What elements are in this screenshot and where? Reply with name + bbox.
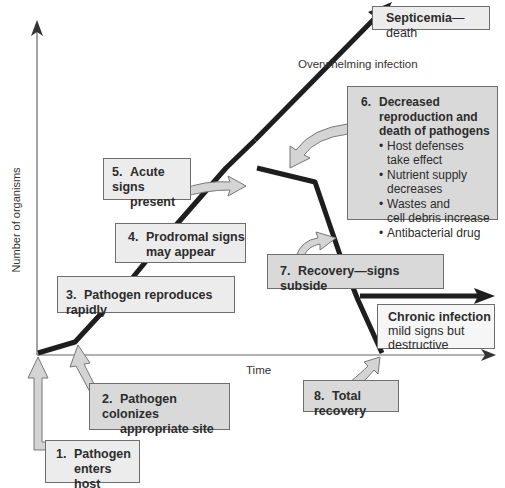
stage-1-line-1: Pathogen xyxy=(74,447,131,461)
chronic-line-2: destructive xyxy=(388,338,448,352)
bullet-wastes: Wastes andcell debris increase xyxy=(379,197,497,226)
x-axis-label: Time xyxy=(246,364,271,376)
stage-6-bullets: Host defensestake effect Nutrient supply… xyxy=(361,139,497,241)
stage-3-box: 3.Pathogen reproduces rapidly xyxy=(57,276,235,313)
callout-arrow-1 xyxy=(28,357,60,450)
bullet-host-defenses: Host defensestake effect xyxy=(379,139,497,168)
stage-3-line-1: Pathogen reproduces rapidly xyxy=(66,288,213,317)
bullet-nutrient-supply: Nutrient supplydecreases xyxy=(379,168,497,197)
stage-6-line-3: death of pathogens xyxy=(361,124,497,139)
stage-4-line-1: Prodromal signs xyxy=(146,230,245,244)
stage-7-line-1: Recovery—signs subside xyxy=(280,264,399,293)
stage-7-number: 7. xyxy=(280,264,298,279)
y-axis-label: Number of organisms xyxy=(10,160,22,280)
bullet-antibacterial: Antibacterial drug xyxy=(379,226,497,241)
chronic-infection-box: Chronic infection mild signs but destruc… xyxy=(377,304,495,349)
stage-8-number: 8. xyxy=(314,389,332,404)
callout-arrow-7 xyxy=(296,232,336,256)
stage-1-number: 1. xyxy=(56,447,74,462)
overwhelming-infection-label: Overwhelming infection xyxy=(298,58,418,70)
stage-3-number: 3. xyxy=(66,288,84,303)
stage-6-line-2: reproduction and xyxy=(361,110,497,125)
stage-7-box: 7.Recovery—signs subside xyxy=(267,254,444,289)
stage-5-number: 5. xyxy=(112,165,130,180)
stage-6-line-1: Decreased xyxy=(379,95,440,109)
stage-6-number: 6. xyxy=(361,95,379,110)
stage-5-line-2: present xyxy=(112,195,190,210)
chronic-line-1: mild signs but xyxy=(388,324,464,338)
septicemia-bold: Septicemia xyxy=(386,11,452,25)
stage-2-number: 2. xyxy=(102,392,120,407)
stage-8-box: 8.Total recovery xyxy=(303,380,399,412)
diagram-canvas xyxy=(0,0,505,488)
stage-2-line-2: appropriate site xyxy=(102,422,229,437)
callout-arrow-6 xyxy=(290,124,348,168)
stage-1-box: 1.Pathogen enters host xyxy=(45,440,140,483)
chronic-title: Chronic infection xyxy=(388,310,491,324)
septicemia-box: Septicemia—death xyxy=(372,6,490,30)
stage-5-box: 5.Acute signs present xyxy=(103,158,191,200)
stage-4-line-2: may appear xyxy=(128,245,245,260)
stage-2-box: 2.Pathogen colonizes appropriate site xyxy=(89,383,230,430)
stage-1-line-2: enters host xyxy=(56,462,139,488)
stage-4-number: 4. xyxy=(128,230,146,245)
stage-4-box: 4.Prodromal signs may appear xyxy=(115,223,246,263)
stage-6-box: 6.Decreased reproduction and death of pa… xyxy=(347,86,498,220)
